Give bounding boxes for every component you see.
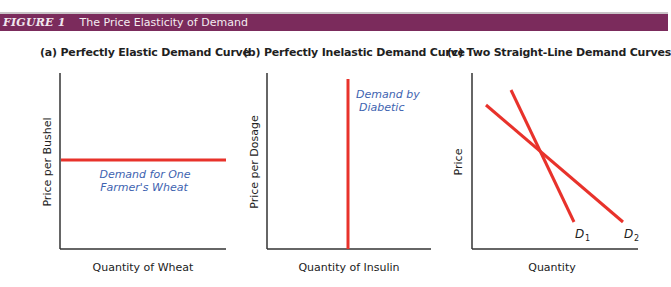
panel-c-d2-label: D — [624, 227, 633, 241]
panel-c-x-label: Quantity — [528, 261, 576, 274]
panel-b-annotation-line1: Demand by — [356, 88, 420, 101]
panel-a-x-label: Quantity of Wheat — [93, 261, 194, 274]
panel-a-y-label: Price per Bushel — [41, 117, 54, 206]
panel-c-d1-subscript: 1 — [585, 234, 590, 243]
panel-c-demand-curve-d1 — [511, 90, 574, 222]
panel-c-chart: Price Quantity D 1 D 2 — [452, 73, 639, 274]
panel-c-y-label: Price — [452, 148, 465, 175]
panel-a-annotation-line2: Farmer's Wheat — [100, 181, 188, 194]
panel-a-chart: Price per Bushel Quantity of Wheat Deman… — [41, 73, 226, 274]
panel-b-y-label: Price per Dosage — [248, 115, 261, 209]
panel-b-x-label: Quantity of Insulin — [298, 261, 399, 274]
panel-a-annotation-line1: Demand for One — [99, 168, 190, 181]
panel-b-annotation-line2: Diabetic — [359, 101, 404, 114]
panel-b-chart: Price per Dosage Quantity of Insulin Dem… — [248, 73, 431, 274]
panel-c-d1-label: D — [575, 227, 584, 241]
panel-c-demand-curve-d2 — [486, 105, 623, 222]
panel-c-d2-subscript: 2 — [634, 234, 639, 243]
